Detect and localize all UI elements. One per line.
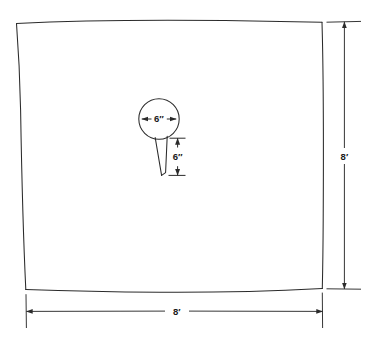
bottom-horizontal-dimension: 8′ [26, 293, 323, 328]
slot-length-label: 6″ [173, 151, 183, 162]
bottom-dimension-label: 8′ [173, 306, 181, 317]
slot-edge-left [155, 138, 161, 176]
circle-diameter-label: 6″ [154, 113, 164, 124]
right-dim-ext-top [327, 21, 362, 22]
slab-edge-left [17, 24, 26, 290]
technical-drawing-canvas: 6″ 6″ 8′ [0, 0, 375, 344]
slab-edge-right [322, 22, 323, 288]
right-vertical-dimension: 8′ [327, 21, 362, 289]
slab-edge-bottom [26, 288, 323, 292]
plan-drawing-svg: 6″ 6″ 8′ [0, 0, 375, 344]
circle-diameter-dimension: 6″ [142, 113, 176, 124]
tapered-slot [155, 136, 167, 175]
slot-length-dimension: 6″ [169, 138, 186, 175]
slab-edge-top [17, 20, 323, 23]
square-slab-outline [17, 20, 324, 292]
right-dimension-label: 8′ [341, 151, 349, 162]
slot-edge-right [162, 136, 168, 175]
